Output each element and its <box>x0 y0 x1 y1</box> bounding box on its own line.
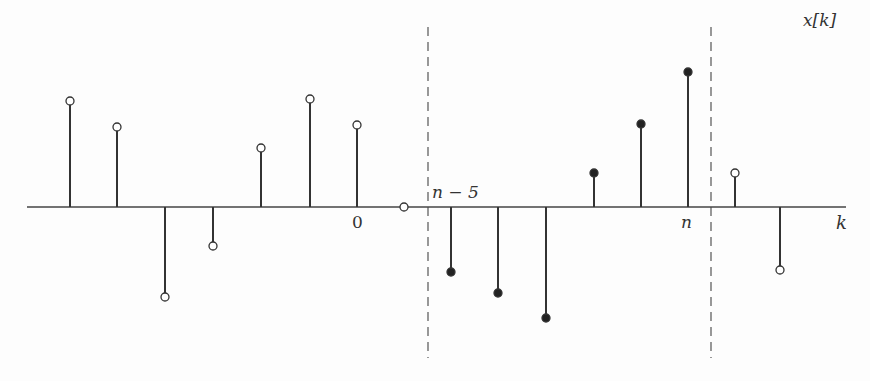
stem-marker-open <box>776 266 784 274</box>
tick-label-zero: 0 <box>352 212 363 232</box>
stem-marker-filled <box>637 120 645 128</box>
stem-marker-filled <box>447 268 455 276</box>
x-axis-label: k <box>836 212 847 233</box>
stem-marker-open <box>209 242 217 250</box>
stem-marker-open <box>731 169 739 177</box>
stem-marker-open <box>161 293 169 301</box>
stem-marker-open <box>113 123 121 131</box>
stem-marker-open <box>66 97 74 105</box>
stem-marker-filled <box>542 314 550 322</box>
stem-marker-open <box>257 144 265 152</box>
stem-marker-open <box>306 95 314 103</box>
stem-marker-open <box>353 121 361 129</box>
stem-marker-filled <box>684 68 692 76</box>
stem-marker-open <box>400 203 408 211</box>
stem-plot: x[k] k 0 n n − 5 <box>0 0 870 381</box>
tick-label-n-minus-5: n − 5 <box>432 182 479 202</box>
tick-label-n: n <box>681 212 692 232</box>
stem-marker-filled <box>590 169 598 177</box>
stem-marker-filled <box>494 289 502 297</box>
y-axis-label: x[k] <box>803 10 836 30</box>
